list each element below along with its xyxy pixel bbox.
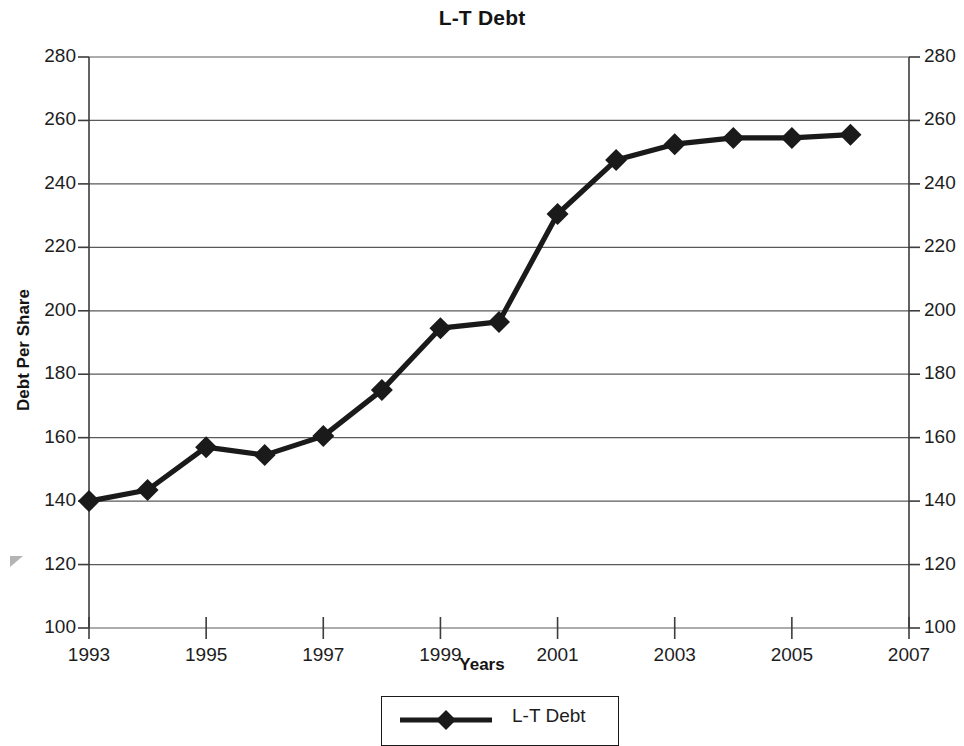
data-point-marker	[78, 490, 100, 512]
x-axis-tick-label: 1993	[54, 644, 124, 666]
legend-line-sample	[400, 707, 492, 733]
y-axis-tick-label-left: 140	[18, 489, 76, 511]
data-point-marker	[664, 133, 686, 155]
x-axis-tick-label: 2003	[640, 644, 710, 666]
y-axis-tick-label-right: 200	[924, 299, 964, 321]
y-axis-tick-label-right: 180	[924, 362, 964, 384]
data-point-marker	[488, 311, 510, 333]
x-axis-tick-label: 2001	[523, 644, 593, 666]
y-axis-tick-label-left: 120	[18, 553, 76, 575]
cursor-arrow-icon	[10, 556, 23, 567]
x-axis-tick-label: 1999	[405, 644, 475, 666]
y-axis-tick-label-right: 160	[924, 426, 964, 448]
y-axis-tick-label-right: 140	[924, 489, 964, 511]
y-axis-tick-label-right: 120	[924, 553, 964, 575]
legend-label-lt-debt: L-T Debt	[512, 705, 586, 727]
y-axis-tick-label-left: 220	[18, 235, 76, 257]
y-axis-tick-label-left: 100	[18, 616, 76, 638]
data-point-marker	[722, 127, 744, 149]
y-axis-tick-label-left: 180	[18, 362, 76, 384]
y-axis-tick-label-left: 240	[18, 172, 76, 194]
y-axis-tick-label-left: 200	[18, 299, 76, 321]
y-axis-tick-label-right: 260	[924, 108, 964, 130]
y-axis-tick-label-left: 260	[18, 108, 76, 130]
legend: L-T Debt	[381, 696, 619, 746]
y-axis-tick-label-left: 280	[18, 45, 76, 67]
y-axis-tick-label-right: 220	[924, 235, 964, 257]
data-point-marker	[781, 127, 803, 149]
y-axis-tick-label-right: 240	[924, 172, 964, 194]
data-point-marker	[839, 124, 861, 146]
y-axis-tick-label-left: 160	[18, 426, 76, 448]
x-axis-tick-label: 2007	[874, 644, 944, 666]
x-axis-tick-label: 2005	[757, 644, 827, 666]
x-axis-tick-label: 1997	[288, 644, 358, 666]
x-axis-tick-label: 1995	[171, 644, 241, 666]
y-axis-tick-label-right: 280	[924, 45, 964, 67]
data-point-marker	[254, 444, 276, 466]
y-axis-tick-label-right: 100	[924, 616, 964, 638]
